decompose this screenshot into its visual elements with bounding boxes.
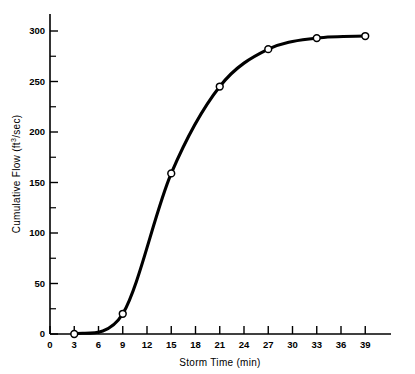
y-axis-title-post: /sec): [11, 115, 22, 138]
y-tick-label: 300: [29, 25, 45, 36]
data-point-marker: [362, 33, 369, 40]
data-point-markers: [71, 33, 369, 338]
x-tick-label: 0: [47, 339, 52, 350]
data-point-marker: [265, 46, 272, 53]
y-axis-major-ticks: [50, 31, 58, 334]
x-tick-label: 12: [142, 339, 153, 350]
data-point-marker: [313, 35, 320, 42]
y-tick-label: 0: [40, 328, 45, 339]
y-tick-label: 150: [29, 177, 45, 188]
data-point-marker: [216, 83, 223, 90]
chart-container: 0 50 100 150 200 250 300 0: [0, 0, 415, 374]
x-tick-label: 15: [166, 339, 177, 350]
y-axis-tick-labels: 0 50 100 150 200 250 300: [29, 25, 45, 339]
x-tick-label: 27: [263, 339, 274, 350]
data-point-marker: [168, 170, 175, 177]
y-tick-label: 200: [29, 126, 45, 137]
x-tick-label: 36: [336, 339, 347, 350]
x-axis-title: Storm Time (min): [179, 357, 260, 368]
x-tick-label: 33: [311, 339, 322, 350]
y-tick-label: 250: [29, 76, 45, 87]
cumulative-flow-line-chart: 0 50 100 150 200 250 300 0: [0, 0, 415, 374]
y-axis-title: Cumulative Flow (ft3/sec): [10, 115, 22, 234]
y-tick-label: 50: [34, 278, 45, 289]
x-tick-label: 21: [214, 339, 225, 350]
x-tick-label: 24: [239, 339, 250, 350]
data-point-marker: [119, 310, 126, 317]
x-tick-label: 18: [190, 339, 201, 350]
y-axis-title-pre: Cumulative Flow (ft: [11, 142, 22, 233]
data-point-marker: [71, 331, 78, 338]
x-tick-label: 9: [120, 339, 125, 350]
x-axis-tick-labels: 0 3 6 9 12 15 18 21 24 27 30 33 36 39: [47, 339, 370, 350]
y-tick-label: 100: [29, 227, 45, 238]
x-tick-label: 3: [72, 339, 77, 350]
x-tick-label: 39: [360, 339, 371, 350]
x-tick-label: 30: [287, 339, 298, 350]
data-series-curve: [74, 36, 365, 334]
x-tick-label: 6: [96, 339, 101, 350]
